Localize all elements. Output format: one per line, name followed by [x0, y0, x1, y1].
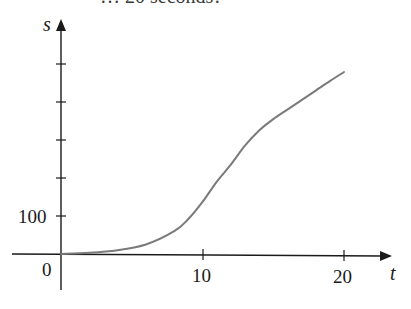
clipped-question-text: … 20 seconds? — [100, 0, 222, 7]
origin-label: 0 — [42, 259, 52, 280]
y-tick-label-100: 100 — [18, 206, 47, 227]
x-axis — [12, 254, 210, 255]
position-curve — [61, 72, 344, 254]
y-axis-arrow-icon — [56, 19, 66, 31]
y-axis-label: s — [43, 13, 51, 35]
x-axis-right — [210, 255, 382, 256]
x-axis-label: t — [390, 262, 396, 284]
x-tick-label-10: 10 — [192, 265, 211, 286]
x-axis-arrow-icon — [380, 251, 392, 261]
x-tick-label-20: 20 — [333, 266, 352, 287]
axes — [12, 19, 392, 290]
chart: … 20 seconds? 100 0 10 20 s t — [0, 0, 411, 309]
